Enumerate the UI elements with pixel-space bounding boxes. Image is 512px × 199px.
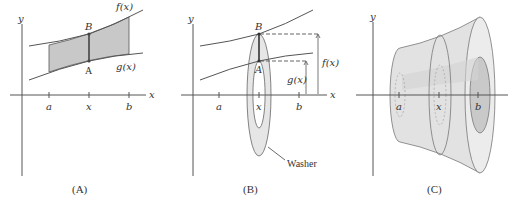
x-axis-label: x [330,89,336,100]
tick-label-b: b [296,101,302,112]
g-label: g(x) [116,61,136,72]
tick-label-x: x [256,101,262,112]
tick-label-a: a [396,101,402,112]
y-axis-label: y [369,11,376,22]
point-a-label: A [254,64,262,75]
tick-label-a: a [46,101,52,112]
tick-label-b: b [475,101,481,112]
point-b-label: B [84,21,92,32]
tick-label-x: x [86,101,92,112]
f-label: f(x) [115,1,133,12]
washer-label: Washer [287,158,317,169]
tick-label-b: b [126,101,132,112]
point-a-label: A [85,65,93,76]
tick-label-x: x [436,101,442,112]
tick-label-a: a [216,101,222,112]
caption-b: (B) [243,183,258,196]
y-axis-label: y [187,13,194,24]
callout-line [268,147,285,160]
y-axis-label: y [17,13,24,24]
point-a [87,59,90,62]
x-axis-label: x [149,89,155,100]
washer-method-figure: y x a x b f(x) g(x) B A (A) y x [0,0,512,199]
caption-c: (C) [427,183,442,196]
g-height-label: g(x) [287,74,307,85]
panel-b: y x a x b B A f(x) g(x) Washer (B) [181,10,339,196]
f-height-label: f(x) [321,57,339,68]
caption-a: (A) [72,183,88,196]
point-b [87,32,90,35]
panel-c: y a x b (C) [356,11,508,196]
point-b-label: B [254,21,262,32]
panel-a: y x a x b f(x) g(x) B A (A) [10,1,155,196]
